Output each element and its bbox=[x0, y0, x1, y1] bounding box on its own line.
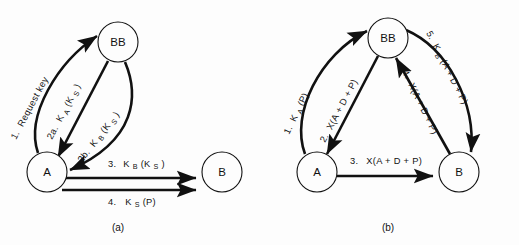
node-b-a-label: B bbox=[218, 166, 226, 178]
edge-b-4-label: 4. X(A + D + P) bbox=[400, 68, 440, 135]
panel-a: BB A B 1. Request key 2a. K A (K S bbox=[9, 22, 242, 233]
node-bb-a-label: BB bbox=[110, 36, 126, 48]
node-b-b-label: B bbox=[455, 166, 463, 178]
edge-a-2a-label: 2a. K A (K S ) bbox=[45, 82, 85, 142]
edge-b-5-label: 5. K B (A + D + P) bbox=[422, 29, 470, 107]
node-bb-b-label: BB bbox=[380, 32, 396, 44]
edge-b-1-path bbox=[301, 31, 367, 154]
panel-b: BB A B 1. K A (P) 2. X(A + D + P) bbox=[282, 18, 479, 233]
edge-a-4-label: 4. K S (P) bbox=[108, 197, 156, 209]
node-a-a-label: A bbox=[43, 166, 51, 178]
protocol-diagram: BB A B 1. Request key 2a. K A (K S bbox=[0, 0, 519, 245]
figure-canvas: BB A B 1. Request key 2a. K A (K S bbox=[0, 0, 519, 245]
panel-a-caption: (a) bbox=[112, 222, 124, 233]
edge-b-1-label: 1. K A (P) bbox=[282, 91, 313, 137]
edge-b-3-label: 3. X(A + D + P) bbox=[350, 156, 422, 166]
edge-a-3-label: 3. K B (K S ) bbox=[108, 159, 165, 171]
node-a-b-label: A bbox=[313, 166, 321, 178]
edge-b-2-path bbox=[327, 56, 378, 154]
panel-b-caption: (b) bbox=[382, 222, 394, 233]
edge-a-1-label: 1. Request key bbox=[9, 75, 50, 141]
